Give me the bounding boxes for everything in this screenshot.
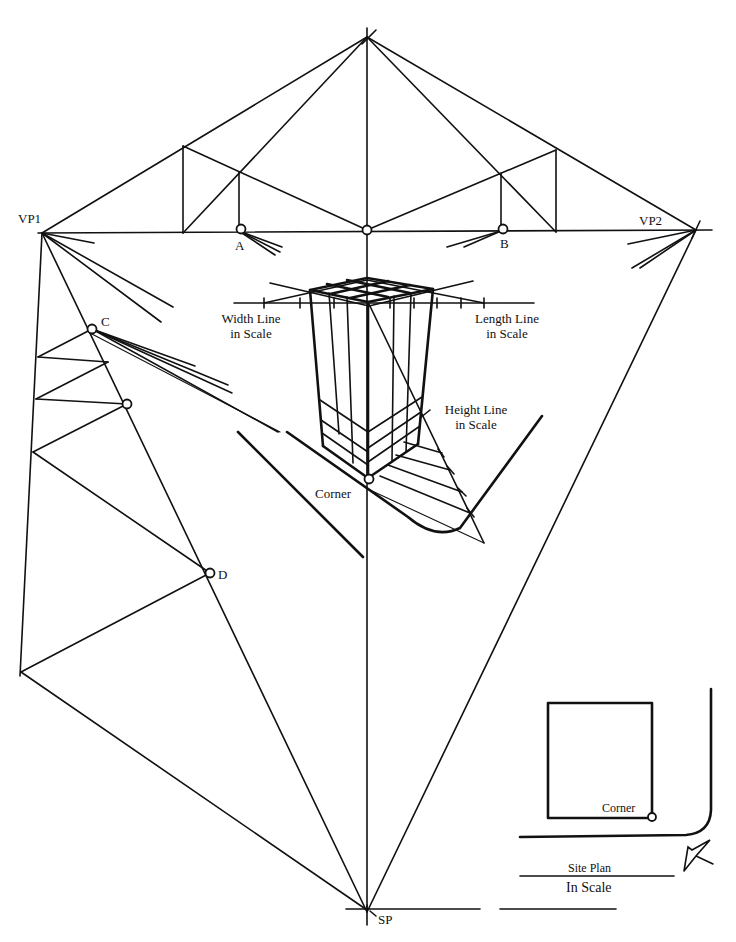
perspective-diagram: VP1 VP2 A B C D SP Corner Width Line in … (0, 0, 736, 942)
site-plan-corner-label: Corner (602, 801, 635, 816)
point-mid (123, 400, 132, 409)
scale-line (234, 280, 534, 308)
point-corner (365, 475, 374, 484)
point-b-label: B (500, 236, 509, 251)
height-line-label: Height Line in Scale (438, 402, 514, 432)
site-plan-corner-point (648, 813, 656, 821)
point-center (363, 226, 372, 235)
point-b (499, 225, 508, 234)
length-line-label: Length Line in Scale (467, 311, 547, 341)
station-point (346, 905, 480, 925)
horizon-line (38, 230, 712, 233)
point-c-label: C (101, 314, 110, 329)
vp1-label: VP1 (18, 211, 41, 226)
in-scale-label: In Scale (566, 880, 611, 895)
width-line-label: Width Line in Scale (213, 311, 289, 341)
point-d-label: D (218, 567, 227, 582)
vp2-label: VP2 (639, 213, 662, 228)
sp-label: SP (378, 912, 392, 927)
vp1-rays (20, 231, 367, 912)
site-plan-label: Site Plan (568, 861, 611, 876)
point-c (88, 325, 97, 334)
point-a-label: A (235, 238, 244, 253)
point-d (206, 569, 215, 578)
point-a (237, 225, 246, 234)
corner-label: Corner (315, 486, 351, 501)
site-plan (500, 689, 713, 909)
left-measure-construction (21, 329, 367, 910)
